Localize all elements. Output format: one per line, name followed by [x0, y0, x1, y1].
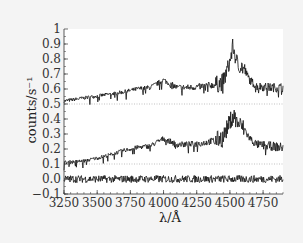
y-tick-label: 0.7 [42, 67, 61, 81]
x-tick-label: 4750 [248, 196, 279, 210]
x-axis-label: λ/Å [159, 210, 182, 225]
chart-figure: −0.10.00.10.20.30.40.50.60.70.80.9132503… [0, 0, 303, 243]
x-tick-label: 3250 [49, 196, 80, 210]
x-tick-label: 3500 [82, 196, 113, 210]
y-tick-label: 0.4 [42, 112, 61, 126]
y-tick-label: 0.6 [42, 82, 61, 96]
y-tick-label: 0.3 [42, 127, 61, 141]
x-tick-label: 4000 [148, 196, 179, 210]
y-tick-label: 0.9 [42, 37, 61, 51]
y-tick-label: 1 [53, 22, 61, 36]
y-axis-label: counts/s⁻¹ [24, 77, 39, 144]
y-tick-label: 0.0 [42, 172, 61, 186]
spectrum-chart: −0.10.00.10.20.30.40.50.60.70.80.9132503… [0, 0, 303, 243]
y-tick-label: 0.2 [42, 142, 61, 156]
y-tick-label: 0.1 [42, 157, 61, 171]
x-tick-label: 4250 [181, 196, 212, 210]
x-tick-label: 3750 [115, 196, 146, 210]
y-tick-label: 0.5 [42, 97, 61, 111]
y-tick-label: 0.8 [42, 52, 61, 66]
x-tick-label: 4500 [215, 196, 246, 210]
